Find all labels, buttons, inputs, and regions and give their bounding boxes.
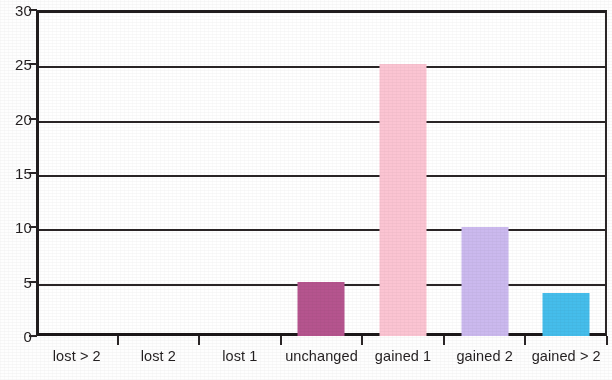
y-axis-tick-mark bbox=[29, 335, 37, 337]
x-axis-tick-label: gained > 2 bbox=[525, 349, 607, 364]
y-axis-tick-label: 15 bbox=[2, 166, 32, 181]
y-axis-tick-mark bbox=[29, 172, 37, 174]
bar-chart: 051015202530 lost > 2lost 2lost 1unchang… bbox=[0, 0, 612, 380]
bar bbox=[298, 282, 345, 336]
y-axis-tick-label: 30 bbox=[2, 3, 32, 18]
bar-slot bbox=[199, 10, 281, 336]
x-axis-tick-label: unchanged bbox=[281, 349, 363, 364]
y-axis-tick-mark bbox=[29, 226, 37, 228]
y-axis-tick-label: 20 bbox=[2, 112, 32, 127]
bar-slot bbox=[444, 10, 526, 336]
x-axis-tick-label: lost > 2 bbox=[36, 349, 118, 364]
bar bbox=[380, 64, 427, 336]
x-axis-tick-mark bbox=[198, 336, 200, 345]
y-axis-tick-label: 5 bbox=[2, 275, 32, 290]
bar-slot bbox=[36, 10, 118, 336]
x-axis-tick-mark bbox=[117, 336, 119, 345]
bar bbox=[543, 293, 590, 336]
y-axis-tick-mark bbox=[29, 118, 37, 120]
x-axis-tick-label: gained 1 bbox=[362, 349, 444, 364]
y-axis-tick-mark bbox=[29, 281, 37, 283]
bar-slot bbox=[525, 10, 607, 336]
y-axis-tick-label: 10 bbox=[2, 220, 32, 235]
x-axis-tick-mark bbox=[524, 336, 526, 345]
x-axis-tick-mark bbox=[443, 336, 445, 345]
x-axis-tick-label: lost 2 bbox=[118, 349, 200, 364]
x-axis-tick-mark bbox=[280, 336, 282, 345]
y-axis-tick-label: 0 bbox=[2, 329, 32, 344]
y-axis-tick-mark bbox=[29, 9, 37, 11]
x-axis-labels: lost > 2lost 2lost 1unchangedgained 1gai… bbox=[36, 349, 607, 375]
x-axis-tick-mark bbox=[606, 336, 608, 345]
bar-slot bbox=[281, 10, 363, 336]
y-axis-tick-label: 25 bbox=[2, 57, 32, 72]
bars-layer bbox=[36, 10, 607, 336]
x-axis-tick-mark bbox=[361, 336, 363, 345]
x-axis-tick-label: lost 1 bbox=[199, 349, 281, 364]
bar bbox=[461, 227, 508, 336]
x-axis-tick-label: gained 2 bbox=[444, 349, 526, 364]
bar-slot bbox=[118, 10, 200, 336]
y-axis-labels: 051015202530 bbox=[0, 0, 32, 380]
y-axis-tick-mark bbox=[29, 63, 37, 65]
bar-slot bbox=[362, 10, 444, 336]
